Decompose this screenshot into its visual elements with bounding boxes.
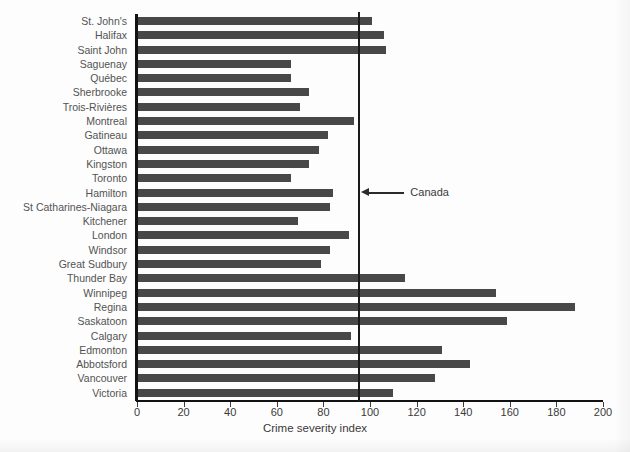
bar [137,203,330,211]
bar-row [137,171,603,185]
category-label: Montreal [0,114,131,128]
category-label: Québec [0,71,131,85]
x-axis-tick-label: 100 [361,406,379,418]
category-label: Saguenay [0,57,131,71]
category-label: Victoria [0,386,131,400]
x-axis-tick-label: 140 [454,406,472,418]
x-axis-tick-label: 20 [177,406,189,418]
bar [137,217,298,225]
bar-row [137,100,603,114]
bar-row [137,14,603,28]
canada-annotation-label: Canada [410,186,449,198]
bar [137,374,435,382]
category-label: Edmonton [0,343,131,357]
category-label: Regina [0,300,131,314]
bars-container [137,14,603,400]
bar [137,88,309,96]
bar [137,103,300,111]
category-label: Winnipeg [0,286,131,300]
bar [137,74,291,82]
bar-row [137,257,603,271]
x-axis-tick-label: 120 [407,406,425,418]
x-axis-tick-label: 60 [271,406,283,418]
bar-row [137,271,603,285]
bar-row [137,57,603,71]
category-label: Calgary [0,329,131,343]
bar-row [137,200,603,214]
bar [137,346,442,354]
x-axis-tick-label: 160 [501,406,519,418]
category-label: Saskatoon [0,314,131,328]
bar-row [137,286,603,300]
bar [137,332,351,340]
bar-row [137,228,603,242]
bar [137,174,291,182]
bar [137,260,321,268]
category-label: Vancouver [0,371,131,385]
bar [137,231,349,239]
category-label: St Catharines-Niagara [0,200,131,214]
bar-row [137,28,603,42]
category-label: Hamilton [0,186,131,200]
bar-row [137,43,603,57]
bar-row [137,143,603,157]
y-axis-line [135,14,138,401]
bar [137,17,372,25]
bar [137,246,330,254]
x-axis-tick-label: 180 [547,406,565,418]
bar [137,303,575,311]
bar-row [137,114,603,128]
bar-row [137,243,603,257]
canada-reference-line [358,12,360,402]
category-label: Gatineau [0,128,131,142]
bar-row [137,300,603,314]
category-label: Sherbrooke [0,85,131,99]
category-label: Abbotsford [0,357,131,371]
category-label: Ottawa [0,143,131,157]
category-label: London [0,228,131,242]
bar [137,117,354,125]
category-label: St. John's [0,14,131,28]
bar [137,360,470,368]
x-axis-tick-label: 40 [224,406,236,418]
category-label: Halifax [0,28,131,42]
bar [137,274,405,282]
bar-row [137,371,603,385]
y-axis-category-labels: St. John'sHalifaxSaint JohnSaguenayQuébe… [0,14,131,400]
category-label: Kingston [0,157,131,171]
bar [137,46,386,54]
category-label: Trois-Rivières [0,100,131,114]
bar [137,60,291,68]
bar-row [137,329,603,343]
bar [137,389,393,397]
bar-row [137,357,603,371]
bar [137,289,496,297]
x-axis-tick-label: 0 [134,406,140,418]
x-axis-tick-label: 200 [594,406,612,418]
category-label: Kitchener [0,214,131,228]
x-axis-tick-label: 80 [317,406,329,418]
bar [137,317,507,325]
bar [137,31,384,39]
category-label: Saint John [0,43,131,57]
chart-page: St. John'sHalifaxSaint JohnSaguenayQuébe… [0,0,630,452]
bar [137,160,309,168]
x-axis-title: Crime severity index [0,422,630,434]
bar-row [137,314,603,328]
category-label: Thunder Bay [0,271,131,285]
bar-row [137,71,603,85]
category-label: Toronto [0,171,131,185]
bar-row [137,386,603,400]
bar [137,189,333,197]
bar-row [137,343,603,357]
bar [137,131,328,139]
bar-chart: St. John'sHalifaxSaint JohnSaguenayQuébe… [0,0,630,452]
bar-row [137,157,603,171]
category-label: Great Sudbury [0,257,131,271]
category-label: Windsor [0,243,131,257]
bar-row [137,85,603,99]
annotation-arrow-line [368,192,404,193]
bar-row [137,214,603,228]
bar-row [137,128,603,142]
bar [137,146,319,154]
